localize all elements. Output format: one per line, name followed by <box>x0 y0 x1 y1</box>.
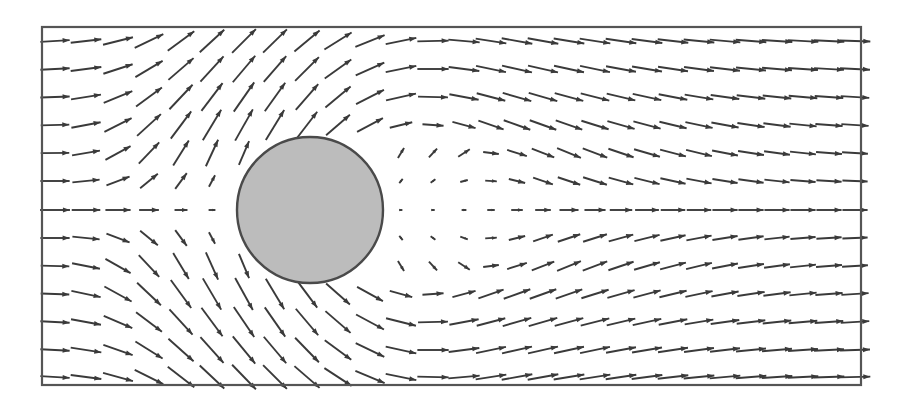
velocity-arrow <box>462 209 467 211</box>
velocity-arrow <box>431 209 434 211</box>
cylinder-obstacle <box>237 137 383 283</box>
velocity-arrow <box>209 209 216 211</box>
velocity-arrow <box>487 209 494 211</box>
vector-field-plot <box>0 0 912 420</box>
vector-field-figure <box>0 0 912 420</box>
velocity-arrow <box>399 209 402 211</box>
